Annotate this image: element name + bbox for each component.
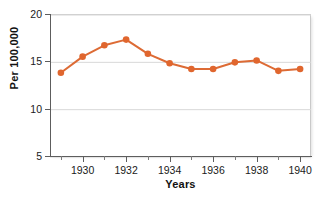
x-tick-major	[83, 156, 84, 162]
x-axis-line	[50, 156, 312, 157]
data-point	[145, 51, 152, 58]
y-tick-mark	[45, 156, 50, 157]
y-axis-title: Per 100,000	[8, 6, 20, 110]
x-tick-minor	[191, 156, 192, 160]
data-point	[232, 59, 239, 66]
x-axis-title: Years	[50, 178, 311, 190]
x-tick-major	[170, 156, 171, 162]
x-tick-major	[213, 156, 214, 162]
data-point	[79, 53, 86, 60]
y-tick-mark	[45, 109, 50, 110]
x-tick-minor	[61, 156, 62, 160]
data-point	[123, 36, 130, 43]
gridlines	[50, 15, 311, 157]
plot-area	[50, 14, 311, 156]
x-tick-label: 1936	[191, 165, 235, 176]
data-point	[297, 66, 304, 73]
y-tick-label: 5	[2, 151, 42, 162]
line-chart: 5101520 193019321934193619381940 Per 100…	[0, 0, 327, 200]
x-tick-major	[257, 156, 258, 162]
x-tick-minor	[148, 156, 149, 160]
series-markers	[58, 36, 304, 76]
data-point	[188, 66, 195, 73]
series-line	[61, 40, 300, 73]
x-tick-label: 1938	[235, 165, 279, 176]
x-tick-minor	[104, 156, 105, 160]
x-tick-minor	[278, 156, 279, 160]
x-tick-label: 1934	[148, 165, 192, 176]
y-tick-mark	[45, 14, 50, 15]
y-tick-mark	[45, 61, 50, 62]
x-tick-label: 1940	[278, 165, 322, 176]
x-tick-minor	[235, 156, 236, 160]
data-point	[275, 68, 282, 75]
x-tick-label: 1932	[104, 165, 148, 176]
data-point	[210, 66, 217, 73]
data-point	[166, 60, 173, 67]
x-tick-label: 1930	[61, 165, 105, 176]
y-axis-line	[50, 14, 51, 157]
x-tick-major	[126, 156, 127, 162]
data-point	[58, 69, 65, 76]
plot-svg	[50, 15, 311, 157]
x-tick-major	[300, 156, 301, 162]
data-point	[253, 57, 260, 64]
data-point	[101, 42, 108, 49]
